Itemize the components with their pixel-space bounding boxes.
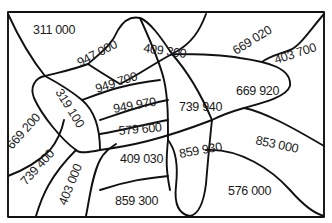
region-value-r8: 949 970 xyxy=(112,95,157,116)
region-value-r14: 859 930 xyxy=(178,140,223,161)
region-value-r2: 947 000 xyxy=(75,37,120,70)
region-value-r11: 579 600 xyxy=(118,120,162,138)
divider-line xyxy=(100,176,168,190)
puzzle-frame xyxy=(8,12,324,217)
region-value-r5: 403 700 xyxy=(273,40,319,67)
region-value-r18: 859 300 xyxy=(115,194,158,208)
fish-number-puzzle: 311 000947 000409 300669 020403 700949 7… xyxy=(0,0,332,223)
divider-line xyxy=(86,144,116,216)
region-value-r1: 311 000 xyxy=(33,23,76,37)
region-value-r19: 576 000 xyxy=(228,184,271,198)
region-value-r9: 739 940 xyxy=(179,100,222,114)
region-value-r10: 669 920 xyxy=(236,84,279,98)
region-value-r7: 319 100 xyxy=(52,86,87,130)
region-value-r13: 409 030 xyxy=(120,152,163,166)
puzzle-outline: 311 000947 000409 300669 020403 700949 7… xyxy=(0,0,332,223)
divider-line xyxy=(206,150,324,216)
region-value-r4: 669 020 xyxy=(230,23,274,58)
region-value-r15: 853 000 xyxy=(254,133,299,156)
lower-fin xyxy=(168,120,212,216)
region-value-r3: 409 300 xyxy=(143,41,188,61)
region-value-r12: 669 200 xyxy=(4,110,43,152)
